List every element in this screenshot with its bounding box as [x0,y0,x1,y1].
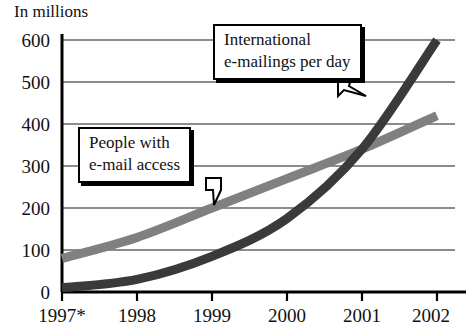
callout-line-2: e-mailings per day [224,51,351,73]
callout-line-1: International [224,29,351,51]
chart-container: In millions 600 500 400 300 200 100 0 19… [0,0,471,334]
callout-line-2: e-mail access [89,154,180,176]
callout-people-with-email-access: People with e-mail access [78,127,191,183]
callout-tails [206,72,366,205]
callout-line-1: People with [89,132,180,154]
callout-international-emailings: International e-mailings per day [213,24,362,80]
